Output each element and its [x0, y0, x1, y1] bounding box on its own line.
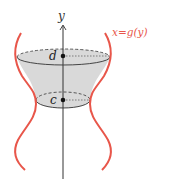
curve-label: x=g(y): [112, 26, 148, 38]
solid-of-revolution-diagram: y d c x=g(y): [0, 0, 169, 188]
label-c: c: [50, 93, 57, 107]
point-c: [61, 98, 66, 103]
label-d: d: [49, 49, 57, 63]
y-axis-label: y: [57, 9, 65, 23]
point-d: [61, 54, 66, 59]
